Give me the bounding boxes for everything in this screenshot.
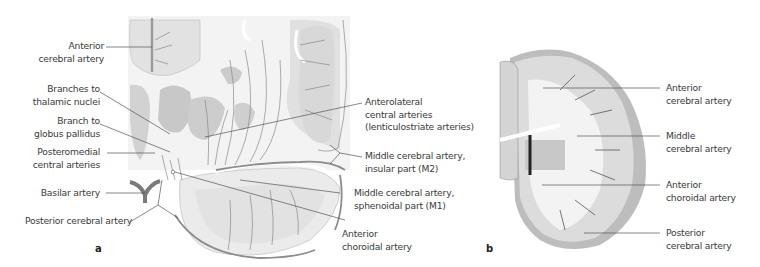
label-mca-insular-m2: Middle cerebral artery, insular part (M2… — [365, 150, 465, 175]
panel-letter-b: b — [486, 243, 493, 254]
label-b-middle-cerebral-artery: Middle cerebral artery — [666, 130, 732, 155]
label-anterior-cerebral-artery: Anterior cerebral artery — [20, 40, 104, 65]
brain-tissue-a — [128, 16, 350, 255]
label-anterolateral-central-arteries: Anterolateral central arteries (lenticul… — [365, 96, 474, 134]
coronal-brain-section-b — [500, 50, 646, 249]
label-b-anterior-choroidal-artery: Anterior choroidal artery — [666, 179, 736, 204]
label-posterior-cerebral-artery: Posterior cerebral artery — [25, 215, 132, 228]
label-b-posterior-cerebral-artery: Posterior cerebral artery — [666, 227, 732, 252]
label-branch-globus-pallidus: Branch to globus pallidus — [10, 115, 100, 140]
label-posteromedial-central-arteries: Posteromedial central arteries — [10, 146, 100, 171]
label-basilar-artery: Basilar artery — [10, 187, 100, 200]
basilar-artery-shape — [130, 170, 175, 203]
panel-letter-a: a — [95, 243, 102, 254]
label-anterior-choroidal-artery-a: Anterior choroidal artery — [342, 228, 412, 253]
label-b-anterior-cerebral-artery: Anterior cerebral artery — [666, 82, 732, 107]
label-mca-sphenoidal-m1: Middle cerebral artery, sphenoidal part … — [354, 187, 454, 212]
label-branches-thalamic-nuclei: Branches to thalamic nuclei — [10, 83, 100, 108]
